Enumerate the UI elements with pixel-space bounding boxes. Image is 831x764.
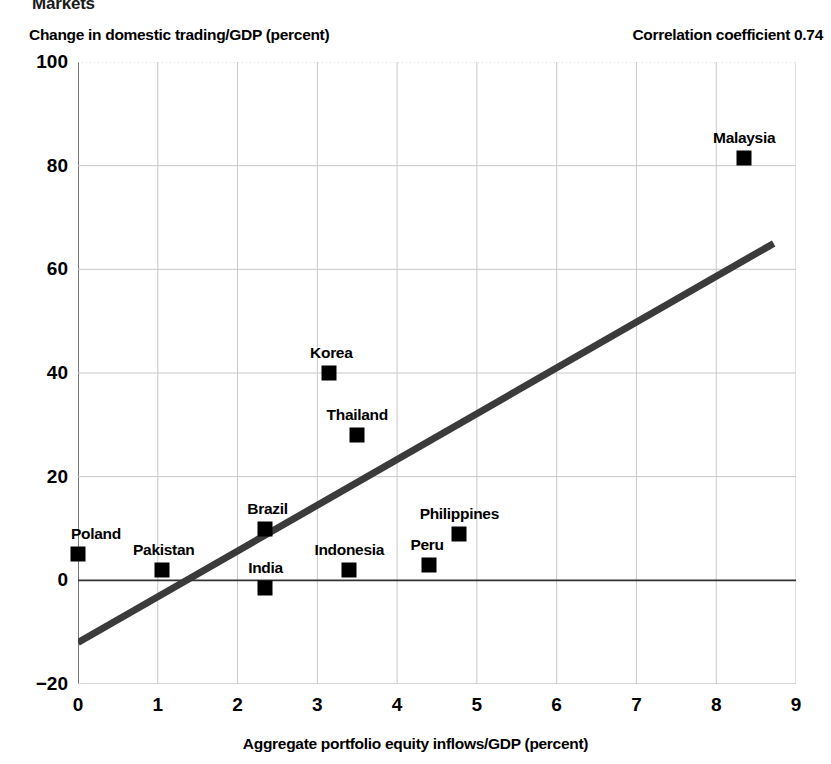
data-point-label: Pakistan <box>133 541 194 559</box>
trendline <box>78 243 774 642</box>
y-axis-tick-label: 60 <box>47 258 68 280</box>
data-point-marker[interactable] <box>350 428 365 443</box>
data-point-marker[interactable] <box>737 150 752 165</box>
x-axis-tick-label: 2 <box>232 694 243 716</box>
data-point-label: India <box>248 559 283 577</box>
figure-title: Markets <box>32 0 95 14</box>
y-axis-tick-label: 100 <box>36 51 68 73</box>
data-point-label: Korea <box>310 344 352 362</box>
data-point-label: Brazil <box>247 500 287 518</box>
data-point-marker[interactable] <box>322 366 337 381</box>
x-axis-tick-label: 3 <box>312 694 323 716</box>
x-axis-tick-label: 0 <box>73 694 84 716</box>
y-axis-tick-label: 80 <box>47 155 68 177</box>
correlation-coefficient-note: Correlation coefficient 0.74 <box>632 26 823 44</box>
plot-area <box>78 62 796 684</box>
data-point-marker[interactable] <box>258 521 273 536</box>
x-axis-tick-label: 9 <box>791 694 802 716</box>
x-axis-label: Aggregate portfolio equity inflows/GDP (… <box>0 735 831 753</box>
plot-svg <box>78 62 796 684</box>
data-point-label: Philippines <box>420 505 499 523</box>
data-point-marker[interactable] <box>452 526 467 541</box>
x-axis-tick-label: 4 <box>392 694 403 716</box>
y-axis-caption: Change in domestic trading/GDP (percent) <box>29 26 329 44</box>
data-point-marker[interactable] <box>342 562 357 577</box>
data-point-label: Peru <box>410 536 443 554</box>
x-axis-tick-label: 5 <box>472 694 483 716</box>
data-point-label: Indonesia <box>314 541 384 559</box>
data-point-marker[interactable] <box>71 547 86 562</box>
y-axis-tick-label: −20 <box>36 673 68 695</box>
data-point-label: Malaysia <box>713 129 775 147</box>
data-point-label: Poland <box>71 525 121 543</box>
y-axis-tick-label: 40 <box>47 362 68 384</box>
y-axis-tick-label: 0 <box>57 569 68 591</box>
figure-container: Markets Change in domestic trading/GDP (… <box>0 0 831 764</box>
y-axis-tick-label: 20 <box>47 466 68 488</box>
data-point-marker[interactable] <box>258 581 273 596</box>
x-axis-tick-label: 8 <box>711 694 722 716</box>
data-point-marker[interactable] <box>154 562 169 577</box>
data-point-marker[interactable] <box>422 557 437 572</box>
x-axis-tick-label: 1 <box>152 694 163 716</box>
x-axis-tick-label: 6 <box>551 694 562 716</box>
x-axis-tick-label: 7 <box>631 694 642 716</box>
data-point-label: Thailand <box>327 406 388 424</box>
